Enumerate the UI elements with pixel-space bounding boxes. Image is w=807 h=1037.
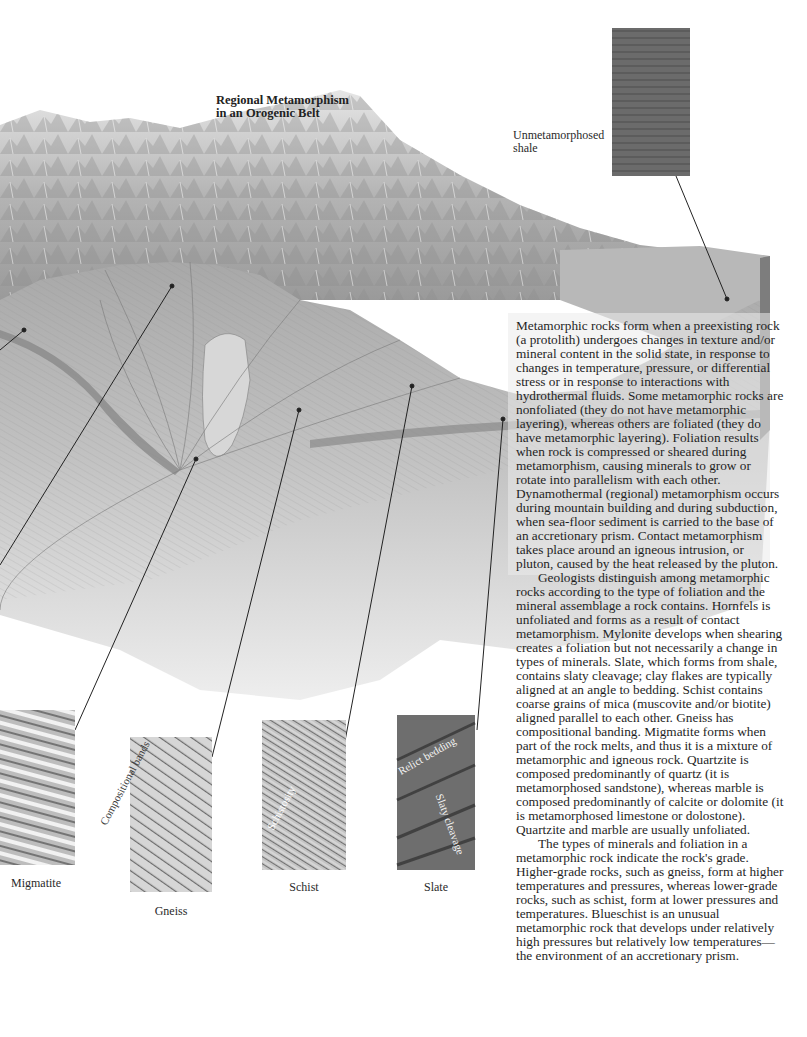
shale-label-line2: shale: [513, 142, 613, 155]
schist-label: Schist: [254, 880, 354, 895]
paragraph-2: Geologists distinguish among metamorphic…: [516, 571, 784, 837]
paragraph-1: Metamorphic rocks form when a preexistin…: [516, 319, 784, 571]
unmetamorphosed-shale-label: Unmetamorphosed shale: [513, 129, 613, 155]
schist-sample: [262, 720, 346, 870]
body-text: Metamorphic rocks form when a preexistin…: [516, 319, 784, 963]
slate-label: Slate: [386, 880, 486, 895]
figure-title-line2: in an Orogenic Belt: [216, 107, 456, 120]
migmatite-label: Migmatite: [0, 876, 86, 891]
shale-sample: [612, 28, 690, 176]
migmatite-sample: [0, 710, 75, 865]
paragraph-3: The types of minerals and foliation in a…: [516, 837, 784, 963]
figure-title: Regional Metamorphism in an Orogenic Bel…: [216, 94, 456, 120]
gneiss-label: Gneiss: [121, 904, 221, 919]
